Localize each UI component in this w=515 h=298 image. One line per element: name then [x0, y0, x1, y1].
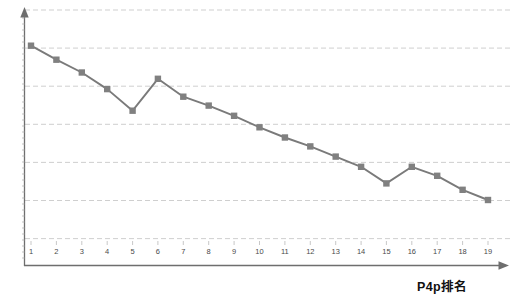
x-tick-label: 18: [452, 247, 474, 257]
y-tick-group: [22, 18, 25, 258]
data-point-marker: [256, 124, 262, 130]
data-point-marker: [282, 134, 288, 140]
data-point-marker: [383, 180, 389, 186]
data-point-marker: [307, 143, 313, 149]
x-tick-label: 10: [249, 247, 271, 257]
x-tick-label: 9: [223, 247, 245, 257]
x-tick-label: 19: [477, 247, 499, 257]
x-tick-label: 13: [325, 247, 347, 257]
data-point-marker: [79, 69, 85, 75]
series-marker-group: [28, 43, 491, 204]
chart-figure: 12345678910111213141516171819 P4p排名: [0, 0, 515, 298]
x-tick-label: 4: [96, 247, 118, 257]
x-tick-label: 15: [375, 247, 397, 257]
x-tick-label: 2: [45, 247, 67, 257]
data-point-marker: [231, 113, 237, 119]
x-tick-label: 16: [401, 247, 423, 257]
data-point-marker: [28, 43, 34, 49]
x-tick-label: 3: [71, 247, 93, 257]
x-tick-label: 14: [350, 247, 372, 257]
data-point-marker: [409, 164, 415, 170]
x-tick-label: 8: [198, 247, 220, 257]
data-point-marker: [53, 57, 59, 63]
x-tick-label: 5: [122, 247, 144, 257]
data-point-marker: [434, 173, 440, 179]
x-tick-label: 11: [274, 247, 296, 257]
series-line: [31, 46, 488, 200]
data-point-marker: [333, 153, 339, 159]
x-tick-label: 1: [20, 247, 42, 257]
data-point-marker: [485, 197, 491, 203]
data-point-marker: [104, 86, 110, 92]
data-series-p4p: [28, 43, 491, 204]
data-point-marker: [155, 76, 161, 82]
data-point-marker: [206, 102, 212, 108]
x-tick-group: [31, 241, 488, 245]
y-axis: [20, 7, 28, 266]
x-tick-label: 6: [147, 247, 169, 257]
x-tick-label: 17: [426, 247, 448, 257]
data-point-marker: [180, 94, 186, 100]
x-tick-label: 7: [172, 247, 194, 257]
x-tick-label: 12: [299, 247, 321, 257]
gridline-group: [25, 10, 512, 239]
data-point-marker: [358, 164, 364, 170]
data-point-marker: [129, 108, 135, 114]
x-axis-title: P4p排名: [417, 276, 467, 295]
data-point-marker: [459, 187, 465, 193]
